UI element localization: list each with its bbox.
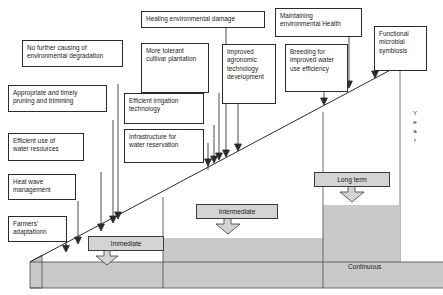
box-line-2: agronomic <box>227 56 272 64</box>
phase-tag-pointers <box>96 186 364 265</box>
box-line-2: management <box>13 186 72 194</box>
box-line-1: Improved <box>227 48 272 56</box>
box-line-1: More tolerant <box>146 47 205 55</box>
box-line-2: environmental degradation <box>27 52 119 60</box>
box-line-1: Appropriate and timely <box>13 89 103 97</box>
step-region-right <box>323 205 400 288</box>
box-line-1: Breeding for <box>290 48 344 56</box>
box-line-2: water reservation <box>129 141 200 149</box>
box-line-2: water resources <box>13 145 80 153</box>
phase-tag-long-term[interactable]: Long term <box>314 172 390 187</box>
box-line-1: No further causing of <box>27 44 119 52</box>
step-region-middle <box>163 238 323 288</box>
box-line-2: improved water <box>290 56 344 64</box>
strategy-box-efficient-water-use[interactable]: Efficient use of water resources <box>8 133 84 161</box>
box-line-1: Heat wave <box>13 178 72 186</box>
year-axis-label: Y e a r <box>410 108 420 144</box>
phase-tag-label: Intermediate <box>219 208 256 215</box>
box-line-2: pruning and trimming <box>13 97 103 105</box>
strategy-box-infrastructure-reservation[interactable]: Infrastructure for water reservation <box>124 129 204 163</box>
immediate-pointer <box>96 250 118 265</box>
year-letter-a: a <box>410 126 420 135</box>
year-letter-y: Y <box>410 108 420 117</box>
diagram-canvas: No further causing of environmental degr… <box>0 0 443 295</box>
box-line-1: Farmers' <box>13 220 63 228</box>
box-line-3: technology <box>227 65 272 73</box>
box-line-2: adaptationn <box>13 228 63 236</box>
intermediate-pointer <box>216 218 240 234</box>
baseline-band-left-bevel <box>30 255 42 288</box>
box-line-1: Functional <box>379 30 423 38</box>
phase-tag-immediate[interactable]: Immediate <box>88 236 164 251</box>
strategy-box-maintaining-env-health[interactable]: Maintaining environmental Health <box>275 8 362 37</box>
stepped-solid-outline <box>30 255 42 288</box>
strategy-box-functional-microbial[interactable]: Functional microbial symbiosis <box>374 26 427 71</box>
box-line-1: Infrastructure for <box>129 133 200 141</box>
box-line-3: symbiosis <box>379 47 423 55</box>
year-letter-e: e <box>410 117 420 126</box>
box-line-2: microbial <box>379 38 423 46</box>
phase-tag-label: Long term <box>337 176 367 183</box>
strategy-box-more-tolerant-cultivar[interactable]: More tolerant cultivar plantation <box>141 43 209 93</box>
year-letter-r: r <box>410 135 420 144</box>
baseline-label-continuous: Continuous <box>348 263 381 270</box>
strategy-box-efficient-irrigation[interactable]: Efficient irrigation technology <box>124 93 204 124</box>
long-term-pointer <box>340 186 364 202</box>
strategy-box-farmers-adaptation[interactable]: Farmers' adaptationn <box>8 216 67 242</box>
box-line-3: use efficiency <box>290 65 344 73</box>
box-line-4: development <box>227 73 272 81</box>
box-line-2: technology <box>129 105 200 113</box>
strategy-box-healing-env-damage[interactable]: Healing environmental damage <box>141 11 265 28</box>
box-line-2: environmental Health <box>280 20 358 28</box>
strategy-box-breeding-water-efficiency[interactable]: Breeding for improved water use efficien… <box>285 44 348 92</box>
strategy-box-no-further-causing[interactable]: No further causing of environmental degr… <box>22 40 123 67</box>
box-line-1: Healing environmental damage <box>146 15 261 23</box>
strategy-box-appropriate-pruning[interactable]: Appropriate and timely pruning and trimm… <box>8 85 107 112</box>
box-line-1: Maintaining <box>280 12 358 20</box>
phase-tag-label: Immediate <box>111 240 142 247</box>
box-line-1: Efficient use of <box>13 137 80 145</box>
phase-tag-intermediate[interactable]: Intermediate <box>196 204 278 219</box>
strategy-box-heat-wave-management[interactable]: Heat wave management <box>8 174 76 200</box>
box-line-1: Efficient irrigation <box>129 97 200 105</box>
box-line-2: cultivar plantation <box>146 55 205 63</box>
strategy-box-improved-agronomic[interactable]: Improved agronomic technology developmen… <box>222 44 276 104</box>
